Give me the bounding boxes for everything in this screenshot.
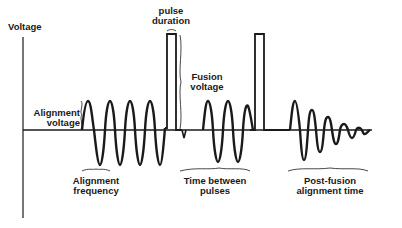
label-pulse-duration: pulse duration bbox=[148, 6, 194, 26]
brace-alignment-frequency bbox=[82, 169, 110, 171]
transient bbox=[182, 130, 186, 138]
brace-fusion-voltage bbox=[180, 35, 181, 129]
brace-pulse-duration bbox=[167, 30, 176, 32]
label-alignment-frequency: Alignment frequency bbox=[66, 176, 126, 196]
inter-pulse-waveform bbox=[203, 101, 253, 162]
y-axis-label: Voltage bbox=[8, 22, 42, 32]
alignment-waveform bbox=[82, 101, 165, 165]
label-time-between-pulses: Time between pulses bbox=[178, 176, 252, 196]
label-alignment-voltage: Alignment voltage bbox=[32, 108, 80, 128]
fusion-pulse-1 bbox=[165, 34, 182, 130]
label-fusion-voltage: Fusion voltage bbox=[185, 72, 229, 92]
brace-post-fusion bbox=[288, 168, 368, 171]
brace-time-between-pulses bbox=[180, 168, 250, 171]
label-post-fusion-alignment-time: Post-fusion alignment time bbox=[288, 176, 372, 196]
brace-alignment-voltage bbox=[81, 101, 82, 129]
fusion-pulse-2 bbox=[250, 34, 290, 130]
